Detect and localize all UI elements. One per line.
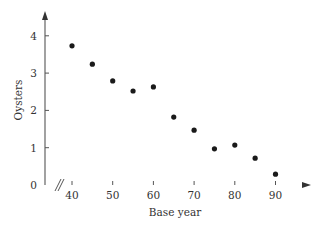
x-tick-label: 90	[269, 189, 282, 201]
data-point	[192, 128, 197, 133]
x-tick-label: 60	[147, 189, 160, 201]
data-points	[69, 43, 278, 177]
data-point	[273, 172, 278, 177]
data-point	[212, 146, 217, 151]
data-point	[151, 84, 156, 89]
y-tick-label: 2	[30, 104, 37, 116]
data-point	[110, 78, 115, 83]
data-point	[90, 62, 95, 67]
data-point	[130, 88, 135, 93]
data-point	[232, 142, 237, 147]
y-tick-label: 4	[30, 30, 37, 42]
y-axis-title: Oysters	[12, 80, 24, 121]
x-tick-label: 70	[187, 189, 200, 201]
data-point	[171, 115, 176, 120]
data-point	[69, 43, 74, 48]
y-axis-arrow-icon	[42, 11, 48, 20]
x-tick-label: 80	[228, 189, 241, 201]
data-point	[253, 156, 258, 161]
y-tick-label: 1	[30, 142, 37, 154]
x-axis-arrow-icon	[302, 182, 311, 188]
y-tick-label: 0	[30, 179, 37, 191]
axis-break-icon	[55, 179, 64, 191]
x-axis-title: Base year	[149, 206, 202, 218]
x-axis: 405060708090	[45, 179, 311, 201]
y-axis: 01234	[30, 11, 49, 191]
x-tick-label: 40	[65, 189, 78, 201]
x-tick-label: 50	[106, 189, 119, 201]
y-tick-label: 3	[30, 67, 37, 79]
scatter-chart: 01234 405060708090 Base year Oysters	[0, 0, 322, 227]
